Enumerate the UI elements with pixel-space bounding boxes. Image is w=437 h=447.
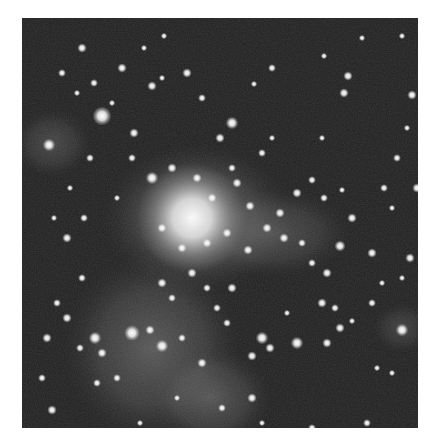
star (90, 79, 98, 87)
star (245, 201, 255, 211)
star (292, 188, 302, 198)
star (262, 223, 272, 233)
star (43, 139, 56, 152)
star (192, 173, 202, 183)
star (178, 334, 186, 342)
star (339, 187, 345, 193)
star (77, 43, 87, 53)
star (156, 340, 169, 353)
star (207, 193, 217, 203)
star (308, 176, 316, 184)
starfield (22, 18, 418, 428)
star (268, 64, 276, 72)
star (203, 284, 211, 292)
star (223, 319, 231, 327)
star (284, 310, 290, 316)
star (74, 90, 80, 96)
star (161, 33, 167, 39)
star (279, 233, 289, 243)
star (58, 69, 66, 77)
star (51, 215, 57, 221)
star (265, 343, 275, 353)
star (243, 245, 253, 255)
star (389, 370, 395, 376)
star (259, 420, 265, 426)
star (404, 125, 410, 131)
star (222, 228, 232, 238)
star (275, 208, 285, 218)
star (343, 71, 353, 81)
star (78, 274, 86, 282)
star (218, 404, 226, 412)
star (331, 304, 339, 312)
star (405, 253, 415, 263)
star (322, 268, 332, 278)
star (93, 379, 101, 387)
star (247, 393, 257, 403)
star (137, 420, 143, 426)
star (53, 299, 61, 307)
star (146, 172, 159, 185)
star (197, 358, 207, 368)
star (321, 53, 327, 59)
star (67, 185, 73, 191)
star (145, 325, 155, 335)
star (291, 337, 304, 350)
star (215, 133, 225, 143)
star (167, 163, 177, 173)
star (258, 149, 266, 157)
star (269, 135, 275, 141)
star (114, 195, 120, 201)
star (393, 154, 401, 162)
star (38, 374, 46, 382)
star (80, 214, 88, 222)
star (399, 275, 405, 281)
star (198, 94, 206, 102)
star (349, 318, 355, 324)
star (407, 90, 417, 100)
star (174, 395, 180, 401)
star (320, 194, 328, 202)
star (319, 135, 325, 141)
star (187, 268, 197, 278)
star (347, 213, 357, 223)
star (379, 280, 385, 286)
star (97, 348, 107, 358)
star (251, 81, 257, 87)
star (124, 325, 140, 341)
star (380, 184, 388, 192)
star (399, 33, 405, 39)
star (396, 324, 409, 337)
star (62, 313, 72, 323)
star (47, 405, 57, 415)
star (389, 205, 395, 211)
star (308, 259, 316, 267)
star (113, 374, 121, 382)
star (363, 419, 371, 427)
star (129, 128, 139, 138)
star (42, 333, 52, 343)
star (76, 344, 84, 352)
star (177, 243, 187, 253)
star (182, 68, 192, 78)
star (339, 88, 349, 98)
star (247, 351, 257, 361)
star (367, 248, 377, 258)
star (157, 223, 167, 233)
star (168, 294, 176, 302)
star (159, 75, 165, 81)
star (256, 332, 269, 345)
star (232, 178, 242, 188)
star (62, 233, 72, 243)
star (226, 117, 239, 130)
star (374, 365, 380, 371)
star (117, 63, 127, 73)
star (92, 106, 111, 125)
star (228, 164, 236, 172)
star (322, 338, 332, 348)
star (334, 240, 345, 251)
star (213, 304, 221, 312)
star (359, 35, 365, 41)
star (109, 100, 115, 106)
star (89, 332, 102, 345)
